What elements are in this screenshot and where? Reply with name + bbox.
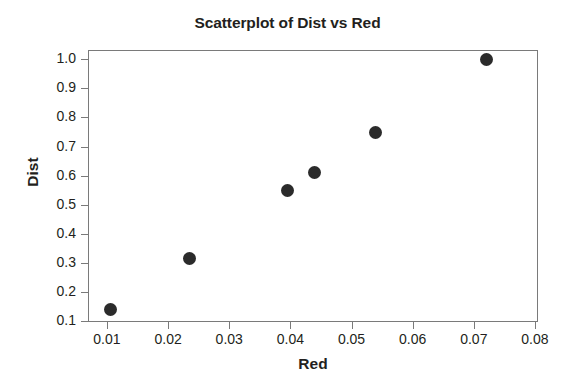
y-tick-label: 0.9 bbox=[36, 79, 76, 95]
data-points-layer bbox=[88, 50, 538, 322]
chart-title: Scatterplot of Dist vs Red bbox=[0, 14, 575, 32]
data-point bbox=[308, 166, 321, 179]
y-tick-label: 0.6 bbox=[36, 167, 76, 183]
data-point bbox=[104, 303, 117, 316]
y-tick-label: 0.2 bbox=[36, 283, 76, 299]
x-tick-label: 0.02 bbox=[138, 331, 198, 347]
x-tick-mark bbox=[352, 322, 353, 329]
data-point bbox=[369, 126, 382, 139]
x-tick-mark bbox=[229, 322, 230, 329]
y-tick-mark bbox=[81, 292, 88, 293]
x-tick-mark bbox=[535, 322, 536, 329]
y-tick-mark bbox=[81, 321, 88, 322]
x-tick-label: 0.07 bbox=[444, 331, 504, 347]
y-tick-mark bbox=[81, 205, 88, 206]
y-tick-mark bbox=[81, 263, 88, 264]
scatterplot-figure: Scatterplot of Dist vs Red 0.10.20.30.40… bbox=[0, 0, 575, 389]
y-tick-label: 0.1 bbox=[36, 312, 76, 328]
y-tick-label: 0.7 bbox=[36, 138, 76, 154]
x-tick-label: 0.06 bbox=[383, 331, 443, 347]
y-tick-label: 1.0 bbox=[36, 50, 76, 66]
y-tick-mark bbox=[81, 88, 88, 89]
x-tick-mark bbox=[168, 322, 169, 329]
y-axis-label: Dist bbox=[24, 122, 42, 222]
x-tick-mark bbox=[474, 322, 475, 329]
x-tick-label: 0.03 bbox=[199, 331, 259, 347]
data-point bbox=[183, 252, 196, 265]
y-tick-mark bbox=[81, 59, 88, 60]
x-axis-label: Red bbox=[88, 355, 538, 373]
x-tick-label: 0.05 bbox=[322, 331, 382, 347]
data-point bbox=[281, 184, 294, 197]
x-tick-label: 0.01 bbox=[77, 331, 137, 347]
x-tick-label: 0.04 bbox=[260, 331, 320, 347]
data-point bbox=[480, 53, 493, 66]
y-tick-mark bbox=[81, 147, 88, 148]
y-tick-mark bbox=[81, 234, 88, 235]
y-tick-mark bbox=[81, 117, 88, 118]
x-tick-mark bbox=[413, 322, 414, 329]
x-tick-label: 0.08 bbox=[505, 331, 565, 347]
y-tick-label: 0.4 bbox=[36, 225, 76, 241]
y-tick-label: 0.8 bbox=[36, 108, 76, 124]
y-tick-mark bbox=[81, 176, 88, 177]
y-tick-label: 0.3 bbox=[36, 254, 76, 270]
y-tick-label: 0.5 bbox=[36, 196, 76, 212]
x-tick-mark bbox=[107, 322, 108, 329]
x-tick-mark bbox=[290, 322, 291, 329]
